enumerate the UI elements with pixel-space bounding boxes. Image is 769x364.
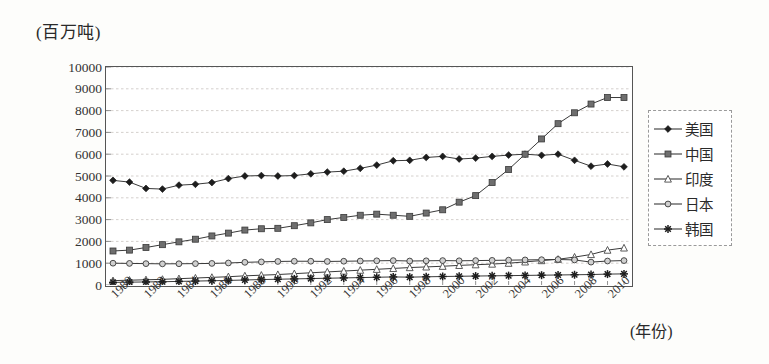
data-point [423, 210, 429, 216]
data-point [340, 274, 348, 282]
data-point [274, 173, 281, 180]
data-point [472, 155, 479, 162]
y-tick-label: 5000 [40, 170, 102, 184]
legend-marker [665, 151, 671, 157]
gridlines [106, 67, 631, 263]
data-point [439, 272, 447, 280]
data-point [538, 152, 545, 159]
data-point [291, 223, 297, 229]
data-point [423, 258, 429, 264]
data-point [308, 258, 314, 264]
data-point [522, 257, 528, 263]
data-point [440, 258, 446, 264]
data-point [572, 257, 578, 263]
data-point [506, 257, 512, 263]
legend-marker-triangle-icon [653, 172, 683, 186]
y-tick-label: 0 [40, 279, 102, 293]
data-point [456, 156, 463, 163]
data-point [374, 258, 380, 264]
data-point [406, 157, 413, 164]
legend-item-5[interactable]: 韩国 [653, 216, 727, 241]
data-point [143, 245, 149, 251]
data-point [242, 227, 248, 233]
data-point [291, 172, 298, 179]
y-tick-label: 6000 [40, 148, 102, 162]
data-point [192, 236, 198, 242]
data-point [555, 151, 562, 158]
legend-item-1[interactable]: 美国 [653, 116, 727, 141]
data-point [357, 212, 363, 218]
data-point [571, 271, 579, 279]
data-point [143, 185, 150, 192]
data-point [357, 258, 363, 264]
data-point [374, 211, 380, 217]
data-point [242, 259, 248, 265]
data-point [209, 233, 215, 239]
data-point [373, 273, 381, 281]
data-point [324, 259, 330, 265]
y-axis-tick-labels: 1000090008000700060005000400030002000100… [36, 66, 102, 287]
data-point [110, 177, 117, 184]
data-point [423, 154, 430, 161]
data-point [110, 260, 116, 266]
data-point [489, 153, 496, 160]
y-tick-label: 7000 [40, 126, 102, 140]
data-point [539, 136, 545, 142]
data-point [604, 161, 611, 168]
data-point [275, 259, 281, 265]
legend-label: 韩国 [683, 218, 713, 239]
data-point [143, 261, 149, 267]
data-point [373, 162, 380, 169]
data-point [340, 168, 347, 175]
data-point [604, 270, 612, 278]
y-tick-label: 2000 [40, 235, 102, 249]
data-point [291, 258, 297, 264]
data-point [160, 261, 166, 267]
data-point [127, 261, 133, 267]
data-point [489, 180, 495, 186]
data-point [538, 271, 546, 279]
data-point [555, 257, 561, 263]
legend-label: 印度 [683, 168, 713, 189]
legend-label: 美国 [683, 118, 713, 139]
data-point [522, 151, 528, 157]
chart-canvas [106, 67, 631, 285]
data-point [258, 259, 264, 265]
data-point [258, 172, 265, 179]
data-point [241, 173, 248, 180]
data-point [275, 225, 281, 231]
data-point [274, 275, 282, 283]
data-point [225, 260, 231, 266]
data-point [126, 179, 133, 186]
y-tick-label: 1000 [40, 257, 102, 271]
legend-marker-circle-icon [653, 197, 683, 211]
x-axis-tick-labels: 1980198219841986198819901992199419961998… [105, 287, 633, 347]
data-point [489, 257, 495, 263]
data-point [621, 95, 627, 101]
data-point [572, 110, 578, 116]
data-point [192, 181, 199, 188]
data-point [176, 261, 182, 267]
data-point [605, 258, 611, 264]
data-point [439, 153, 446, 160]
data-point [588, 259, 594, 265]
legend-item-4[interactable]: 日本 [653, 191, 727, 216]
data-point [473, 258, 479, 264]
data-point [209, 179, 216, 186]
data-point [473, 193, 479, 199]
data-point [539, 257, 545, 263]
series-1 [110, 151, 628, 193]
data-point [506, 166, 512, 172]
data-point [209, 261, 215, 267]
data-point [621, 258, 627, 264]
data-point [406, 273, 414, 281]
legend-item-3[interactable]: 印度 [653, 166, 727, 191]
data-point [193, 261, 199, 267]
data-point [126, 247, 132, 253]
series-2 [110, 95, 627, 254]
x-axis-unit-label: (年份) [630, 318, 673, 342]
legend-item-2[interactable]: 中国 [653, 141, 727, 166]
legend-label: 日本 [683, 193, 713, 214]
data-point [621, 244, 628, 251]
data-point [605, 95, 611, 101]
